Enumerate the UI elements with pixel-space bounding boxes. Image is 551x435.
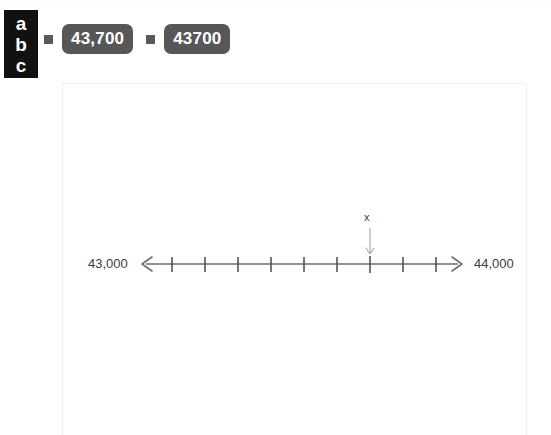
- top-artifact-strip: [0, 0, 551, 8]
- square-bullet-icon: [44, 35, 53, 44]
- letter-c: c: [16, 55, 27, 76]
- square-bullet-icon: [146, 35, 155, 44]
- letter-a: a: [16, 13, 27, 34]
- content-panel-frame: [62, 83, 527, 435]
- answer-badge-row: 43,700 43700: [44, 22, 230, 56]
- number-line-right-label: 44,000: [474, 257, 514, 270]
- number-line-left-label: 43,000: [88, 257, 128, 270]
- value-badge-plain[interactable]: 43700: [164, 24, 230, 54]
- letter-b: b: [15, 34, 27, 55]
- value-badge-formatted[interactable]: 43,700: [62, 24, 133, 54]
- letters-box: a b c: [4, 10, 38, 78]
- number-line-marker-label: x: [364, 212, 370, 223]
